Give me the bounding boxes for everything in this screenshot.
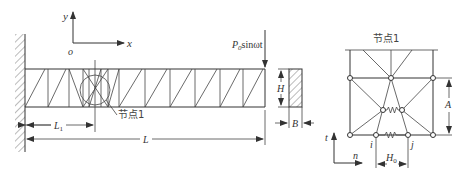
dimension-H0-label: H0 <box>385 152 397 165</box>
load-suffix: sinωt <box>242 39 263 50</box>
width-B-label: B <box>292 118 298 129</box>
truss-diagram-figure: y x o <box>0 0 467 184</box>
truss-beam <box>25 69 265 107</box>
node1-detail: 节点1 i j A <box>325 33 452 168</box>
load-symbol: P <box>231 39 238 50</box>
node-j-label: j <box>409 139 414 150</box>
axis-n-label: n <box>353 150 358 161</box>
node1-detail-title: 节点1 <box>373 33 399 44</box>
node-i-label: i <box>370 139 373 150</box>
axis-t-label: t <box>325 132 328 143</box>
dynamic-load: P0sinωt <box>231 30 265 67</box>
x-axis-label: x <box>126 37 132 49</box>
y-axis-label: y <box>62 10 68 22</box>
coordinate-axes: y x o <box>62 10 132 57</box>
node1-callout: 节点1 <box>80 60 144 132</box>
dimension-L-label: L <box>142 134 149 145</box>
dimension-L1-label: L1 <box>53 120 64 133</box>
origin-label: o <box>68 46 73 57</box>
cross-section: H B <box>275 69 314 129</box>
wall-hatch-icon <box>15 34 25 152</box>
node1-callout-label: 节点1 <box>118 109 144 120</box>
dimension-A-label: A <box>444 99 452 110</box>
height-H-label: H <box>276 83 285 94</box>
fixed-wall-support <box>15 34 25 152</box>
node-i-icon <box>374 133 379 138</box>
svg-text:P0sinωt: P0sinωt <box>231 39 263 52</box>
cross-section-rect-icon <box>289 69 302 107</box>
dimension-lines: L1 L <box>25 110 265 145</box>
node-j-icon <box>406 133 411 138</box>
